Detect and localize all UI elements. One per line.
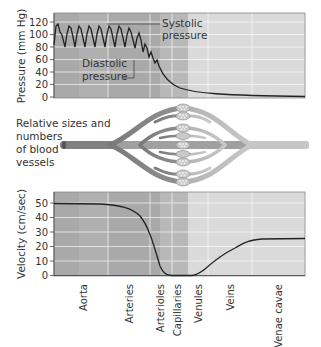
x-label-venae-cavae: Venae cavae — [273, 284, 284, 347]
x-label-veins: Veins — [225, 284, 236, 311]
x-label-aorta: Aorta — [78, 284, 89, 311]
y-tick-80: 80 — [35, 42, 48, 53]
y-tick-0: 0 — [42, 270, 48, 281]
y-tick-100: 100 — [29, 29, 48, 40]
vessel-label-line1: Relative sizes and — [16, 117, 111, 129]
y-tick-10: 10 — [35, 256, 48, 267]
y-tick-0: 0 — [42, 92, 48, 103]
aorta-opening — [62, 141, 66, 149]
x-label-arteries: Arteries — [124, 284, 135, 323]
y-tick-40: 40 — [35, 212, 48, 223]
x-label-venules: Venules — [193, 284, 204, 323]
vessel-label-line4: vessels — [16, 156, 54, 168]
pressure-axis-label: Pressure (mm Hg) — [15, 9, 27, 104]
pressure-chart: 120 100 80 60 40 20 0 Pressure (mm Hg) S… — [15, 9, 305, 104]
blood-vessel-diagram: Relative sizes and numbers of blood vess… — [16, 104, 305, 186]
venous-region — [188, 13, 305, 98]
velocity-axis-label: Velocity (cm/sec) — [15, 189, 27, 279]
y-tick-20: 20 — [35, 79, 48, 90]
y-tick-30: 30 — [35, 227, 48, 238]
y-tick-40: 40 — [35, 67, 48, 78]
vessel-label-line2: numbers — [16, 130, 62, 142]
velocity-chart: 50 40 30 20 10 0 Velocity (cm/sec) — [15, 189, 305, 281]
circulation-figure: 120 100 80 60 40 20 0 Pressure (mm Hg) S… — [0, 0, 321, 347]
diastolic-label-line1: Diastolic — [82, 57, 127, 69]
x-label-capillaries: Capillaries — [172, 284, 183, 336]
systolic-label-line1: Systolic — [162, 17, 203, 29]
y-tick-120: 120 — [29, 17, 48, 28]
y-tick-50: 50 — [35, 198, 48, 209]
venous-region-bottom — [188, 192, 305, 276]
x-label-arterioles: Arterioles — [155, 284, 166, 332]
diastolic-label-line2: pressure — [82, 70, 127, 82]
x-category-labels: Aorta Arteries Arterioles Capillaries Ve… — [78, 284, 284, 347]
vessel-label-line3: of blood — [16, 143, 59, 155]
y-tick-60: 60 — [35, 54, 48, 65]
y-tick-20: 20 — [35, 241, 48, 252]
systolic-label-line2: pressure — [162, 29, 207, 41]
